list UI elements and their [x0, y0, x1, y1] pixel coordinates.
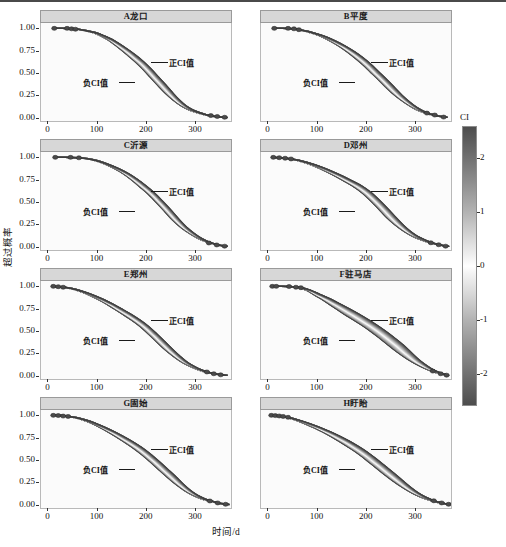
panel-g-curves [41, 410, 232, 509]
x-tick-mark [47, 121, 48, 124]
y-tick-label: 0.25 [3, 347, 35, 357]
annotation-positive-ci-leader [371, 62, 388, 63]
y-tick-mark [36, 157, 39, 158]
y-tick-mark [36, 180, 39, 181]
y-tick-label: 0.25 [3, 89, 35, 99]
annotation-positive-ci: 正CI值 [389, 186, 414, 197]
x-tick-mark [317, 121, 318, 124]
annotation-positive-ci-leader [151, 320, 168, 321]
y-tick-mark [36, 28, 39, 29]
y-tick-mark [36, 460, 39, 461]
annotation-negative-ci-leader [339, 340, 355, 341]
annotation-positive-ci: 正CI值 [389, 57, 414, 68]
x-tick-mark [195, 121, 196, 124]
x-tick-mark [47, 250, 48, 253]
panel-b: B平度正CI值负CI值0100200300 [260, 10, 452, 122]
colorbar-tick-label: -1 [480, 314, 488, 324]
x-tick-mark [47, 379, 48, 382]
x-tick-label: 300 [180, 124, 210, 134]
x-tick-mark [317, 379, 318, 382]
y-tick-label: 1.00 [3, 409, 35, 419]
x-tick-label: 0 [32, 253, 62, 263]
y-tick-label: 0.50 [3, 325, 35, 335]
x-tick-mark [97, 508, 98, 511]
annotation-positive-ci: 正CI值 [169, 57, 194, 68]
y-tick-mark [36, 438, 39, 439]
panel-a: A龙口正CI值负CI值1.000.750.500.250.00010020030… [40, 10, 232, 122]
x-tick-label: 100 [302, 511, 332, 521]
figure-top-rule [0, 0, 506, 2]
y-tick-label: 0.50 [3, 196, 35, 206]
annotation-positive-ci-leader [151, 191, 168, 192]
x-tick-label: 300 [400, 253, 430, 263]
x-tick-mark [146, 379, 147, 382]
x-tick-label: 100 [82, 253, 112, 263]
x-tick-mark [366, 250, 367, 253]
x-tick-label: 0 [252, 253, 282, 263]
annotation-positive-ci-leader [371, 191, 388, 192]
y-tick-label: 0.25 [3, 476, 35, 486]
x-tick-mark [366, 379, 367, 382]
x-tick-mark [146, 121, 147, 124]
x-tick-mark [317, 508, 318, 511]
x-tick-label: 200 [351, 382, 381, 392]
panel-c-curves [41, 152, 232, 251]
annotation-negative-ci-leader [119, 469, 135, 470]
x-tick-label: 200 [131, 511, 161, 521]
y-tick-mark [36, 286, 39, 287]
x-tick-label: 200 [131, 382, 161, 392]
colorbar-tick-mark [477, 374, 480, 375]
x-tick-mark [415, 121, 416, 124]
x-tick-label: 100 [302, 124, 332, 134]
panel-c: C沂源正CI值负CI值1.000.750.500.250.00010020030… [40, 139, 232, 251]
y-tick-label: 0.50 [3, 67, 35, 77]
annotation-negative-ci-leader [119, 340, 135, 341]
colorbar-tick-mark [477, 266, 480, 267]
panel-g-plot-area: 正CI值负CI值 [40, 410, 232, 509]
x-tick-mark [146, 508, 147, 511]
x-tick-label: 0 [32, 511, 62, 521]
x-tick-label: 100 [82, 124, 112, 134]
y-tick-mark [36, 95, 39, 96]
x-tick-label: 300 [400, 511, 430, 521]
panel-g-title: G固始 [40, 397, 232, 410]
y-tick-label: 0.00 [3, 112, 35, 122]
y-tick-mark [36, 73, 39, 74]
colorbar-tick-label: 2 [480, 152, 485, 162]
x-tick-mark [47, 508, 48, 511]
panel-g: G固始正CI值负CI值1.000.750.500.250.00010020030… [40, 397, 232, 509]
panel-a-plot-area: 正CI值负CI值 [40, 23, 232, 122]
x-tick-label: 0 [252, 511, 282, 521]
x-tick-mark [195, 250, 196, 253]
panel-b-title: B平度 [260, 10, 452, 23]
annotation-positive-ci: 正CI值 [169, 444, 194, 455]
x-tick-label: 300 [180, 253, 210, 263]
x-tick-mark [195, 379, 196, 382]
x-tick-label: 0 [32, 124, 62, 134]
annotation-positive-ci: 正CI值 [389, 315, 414, 326]
annotation-negative-ci: 负CI值 [83, 335, 108, 346]
x-tick-label: 200 [131, 124, 161, 134]
colorbar-tick-label: 1 [480, 206, 485, 216]
x-tick-label: 100 [302, 382, 332, 392]
panel-f-plot-area: 正CI值负CI值 [260, 281, 452, 380]
panel-e: E郑州正CI值负CI值1.000.750.500.250.00010020030… [40, 268, 232, 380]
y-tick-label: 0.75 [3, 303, 35, 313]
y-tick-label: 0.75 [3, 174, 35, 184]
panel-b-curves [261, 23, 452, 122]
x-tick-mark [97, 121, 98, 124]
y-tick-mark [36, 224, 39, 225]
x-tick-label: 300 [180, 511, 210, 521]
annotation-positive-ci-leader [151, 62, 168, 63]
x-tick-mark [415, 508, 416, 511]
panel-e-curves [41, 281, 232, 380]
y-tick-mark [36, 353, 39, 354]
x-tick-label: 300 [400, 124, 430, 134]
panel-e-title: E郑州 [40, 268, 232, 281]
y-tick-label: 0.00 [3, 370, 35, 380]
panel-c-plot-area: 正CI值负CI值 [40, 152, 232, 251]
panel-b-plot-area: 正CI值负CI值 [260, 23, 452, 122]
x-tick-label: 200 [351, 511, 381, 521]
panel-d-curves [261, 152, 452, 251]
x-tick-mark [267, 121, 268, 124]
